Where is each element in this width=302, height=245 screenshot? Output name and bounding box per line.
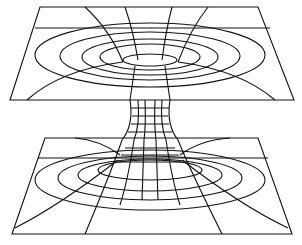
throat <box>122 100 178 140</box>
upper-sheet <box>10 7 294 100</box>
lower-sheet <box>12 138 292 234</box>
wormhole-diagram <box>0 0 302 245</box>
